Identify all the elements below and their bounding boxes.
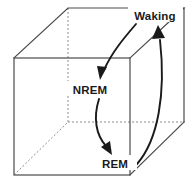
diagram-canvas: Waking NREM REM bbox=[0, 0, 195, 188]
sleep-state-cube-diagram: Waking NREM REM bbox=[0, 0, 195, 188]
arrow-rem-to-waking bbox=[137, 25, 165, 164]
hidden-edge-bottom-left-diagonal bbox=[14, 122, 68, 175]
arrow-waking-to-nrem-path bbox=[104, 24, 136, 70]
state-label-nrem: NREM bbox=[73, 84, 108, 96]
arrow-nrem-to-rem bbox=[96, 99, 112, 155]
state-label-rem: REM bbox=[102, 158, 128, 170]
state-label-waking: Waking bbox=[134, 10, 176, 22]
edge-right-bottom-diagonal bbox=[130, 122, 184, 175]
state-labels: Waking NREM REM bbox=[65, 7, 183, 170]
arrow-rem-to-waking-path bbox=[137, 40, 162, 164]
arrow-waking-to-nrem-head bbox=[97, 66, 107, 80]
